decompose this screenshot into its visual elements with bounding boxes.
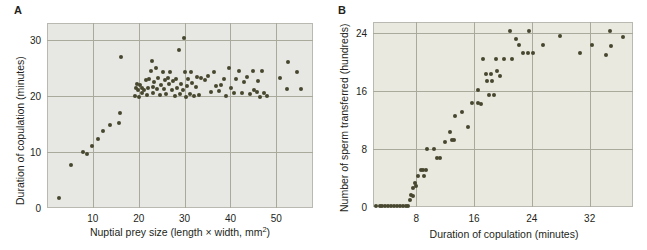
scatter-point — [494, 57, 498, 61]
gridline-vertical — [139, 23, 140, 208]
x-tick-label: 30 — [179, 213, 190, 224]
panel-a-y-axis-title: Duration of copulation (minutes) — [14, 56, 26, 205]
scatter-point — [245, 75, 249, 79]
scatter-point — [448, 130, 452, 134]
scatter-point — [443, 140, 447, 144]
scatter-point — [182, 36, 186, 40]
scatter-point — [510, 57, 514, 61]
scatter-point — [422, 174, 426, 178]
scatter-point — [217, 89, 221, 93]
scatter-point — [151, 91, 155, 95]
scatter-point — [265, 94, 269, 98]
scatter-point — [411, 194, 415, 198]
scatter-point — [255, 90, 259, 94]
scatter-point — [492, 93, 496, 97]
gridline-vertical — [590, 22, 591, 207]
scatter-point — [604, 53, 608, 57]
scatter-point — [484, 72, 488, 76]
panel-b: B 8162432 081624 Duration of copulation … — [324, 0, 647, 250]
scatter-point — [481, 57, 485, 61]
panel-b-plot-area — [373, 22, 633, 207]
x-tick-label: 10 — [87, 213, 98, 224]
scatter-point — [85, 152, 89, 156]
x-tick-label: 8 — [414, 213, 420, 224]
scatter-point — [90, 144, 94, 148]
scatter-point — [234, 77, 238, 81]
scatter-point — [531, 51, 535, 55]
scatter-point — [203, 78, 207, 82]
scatter-point — [194, 85, 198, 89]
panel-a: A 1020304050 0102030 Nuptial prey size (… — [0, 0, 324, 250]
gridline-vertical — [416, 22, 417, 207]
scatter-point — [119, 55, 123, 59]
scatter-point — [285, 87, 289, 91]
scatter-point — [177, 48, 181, 52]
scatter-point — [278, 76, 282, 80]
scatter-point — [406, 204, 410, 208]
scatter-point — [476, 88, 480, 92]
panel-a-x-axis-title: Nuptial prey size (length × width, mm2) — [90, 226, 270, 238]
scatter-point — [69, 163, 73, 167]
scatter-point — [101, 129, 105, 133]
scatter-point — [117, 121, 121, 125]
scatter-point — [286, 60, 290, 64]
scatter-point — [174, 77, 178, 81]
scatter-point — [432, 147, 436, 151]
scatter-point — [108, 123, 112, 127]
scatter-point — [438, 156, 442, 160]
x-tick-label: 50 — [271, 213, 282, 224]
scatter-point — [485, 79, 489, 83]
scatter-point — [188, 92, 192, 96]
x-tick-label: 40 — [225, 213, 236, 224]
scatter-point — [578, 51, 582, 55]
scatter-point — [175, 86, 179, 90]
scatter-point — [590, 43, 594, 47]
scatter-point — [212, 70, 216, 74]
scatter-point — [466, 125, 470, 129]
gridline-vertical — [474, 22, 475, 207]
scatter-point — [489, 72, 493, 76]
scatter-point — [166, 76, 170, 80]
panel-a-x-axis-title-tail: ) — [267, 226, 271, 238]
scatter-point — [150, 59, 154, 63]
x-tick-label: 24 — [526, 213, 537, 224]
scatter-point — [179, 82, 183, 86]
gridline-horizontal — [373, 33, 633, 34]
y-tick-label: 16 — [347, 85, 367, 96]
scatter-point — [57, 196, 61, 200]
scatter-point — [222, 77, 226, 81]
panel-b-letter: B — [338, 4, 346, 16]
gridline-horizontal — [47, 96, 313, 97]
gridline-vertical — [276, 23, 277, 208]
scatter-point — [184, 95, 188, 99]
scatter-point — [521, 51, 525, 55]
scatter-point — [183, 70, 187, 74]
scatter-point — [460, 110, 464, 114]
scatter-point — [149, 69, 153, 73]
y-tick-label: 30 — [21, 34, 41, 45]
y-tick-label: 8 — [347, 143, 367, 154]
scatter-point — [621, 35, 625, 39]
figure-container: A 1020304050 0102030 Nuptial prey size (… — [0, 0, 647, 250]
scatter-point — [487, 93, 491, 97]
panel-a-x-axis-title-base: Nuptial prey size (length × width, mm — [90, 226, 262, 238]
scatter-point — [151, 85, 155, 89]
scatter-point — [251, 69, 255, 73]
y-tick-label: 24 — [347, 27, 367, 38]
x-tick-label: 20 — [133, 213, 144, 224]
scatter-point — [173, 94, 177, 98]
scatter-point — [248, 92, 252, 96]
scatter-point — [185, 84, 189, 88]
x-tick-label: 16 — [469, 213, 480, 224]
scatter-point — [490, 79, 494, 83]
gridline-horizontal — [373, 91, 633, 92]
panel-b-y-axis-title: Number of sperm transferred (hundreds) — [338, 24, 350, 213]
y-tick-label: 0 — [347, 202, 367, 213]
gridline-vertical — [93, 23, 94, 208]
panel-b-x-axis-title: Duration of copulation (minutes) — [430, 228, 579, 240]
gridline-vertical — [532, 22, 533, 207]
scatter-point — [502, 57, 506, 61]
scatter-point — [558, 34, 562, 38]
scatter-point — [416, 174, 420, 178]
scatter-point — [162, 87, 166, 91]
